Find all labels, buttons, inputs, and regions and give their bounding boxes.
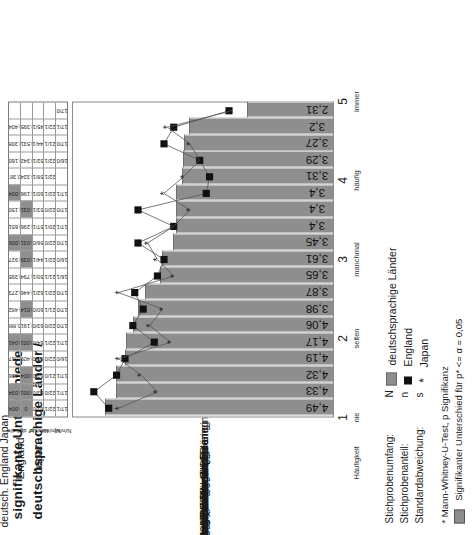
- table-cell: 17/17/0,77: [56, 300, 67, 317]
- table-cell: 70/60/0,95: [33, 300, 44, 317]
- table-cell: 70/63/0,74: [33, 317, 44, 334]
- table-cell-value: 0,5312: [21, 140, 32, 146]
- table-cell: 0,1967: [21, 184, 32, 201]
- table-cell: 70/50/1,31: [33, 267, 44, 284]
- table-cell: 0,0097: [9, 234, 20, 251]
- table-cell-value: 0,4462: [21, 289, 32, 295]
- table-cell-value: 22/22/1,06: [44, 339, 55, 345]
- series-overlay: *******************: [73, 102, 333, 416]
- japan-marker: *: [144, 322, 156, 327]
- table-cell: 17/16/0,81: [56, 151, 67, 168]
- table-cell-value: 22/22/1,03: [44, 123, 55, 129]
- england-marker: [129, 322, 136, 329]
- table-cell-value: 0,4096: [21, 355, 32, 361]
- table-cell: 0,387: [9, 167, 20, 184]
- table-cell: 0,1918: [21, 317, 32, 334]
- table-cell: 0,4822: [9, 300, 20, 317]
- japan-marker: *: [113, 289, 125, 294]
- table-cell-value: 0,888: [9, 322, 20, 328]
- table-cell-value: 70/63/0,84: [33, 355, 44, 361]
- footnote-significance-text: Signifikanter Unterschied für p* <= α = …: [453, 318, 464, 500]
- table-cell: 17/17/1,09: [56, 184, 67, 201]
- japan-marker: *: [158, 190, 170, 195]
- figure-canvas: signifikante Unterschiede: deutschsprach…: [0, 0, 472, 535]
- table-cell-value: 22/22/1,15: [44, 256, 55, 262]
- table-cell-value: 22/22/1,23: [44, 289, 55, 295]
- table-cell: 70/52/1,21: [33, 151, 44, 168]
- table-cell: 70/61/0,92: [33, 399, 44, 416]
- legend-label: England: [402, 327, 414, 366]
- table-cell: 0,0416: [9, 333, 20, 350]
- table-cell-value: 70/60/0,95: [33, 306, 44, 312]
- definition-value: s: [414, 392, 425, 397]
- legend-label: Japan: [418, 338, 430, 367]
- legend-item: England: [400, 247, 415, 385]
- england-marker: [151, 338, 158, 345]
- table-cell: 54/44/1,11: [33, 134, 44, 151]
- table-cell: 22/22/0,80: [44, 350, 55, 367]
- japan-marker: *: [151, 388, 163, 393]
- group-label-japan: Japan: [32, 442, 44, 473]
- table-cell-value: 0,6519: [9, 223, 20, 229]
- table-cell: 22/22/1,06: [44, 333, 55, 350]
- table-cell: 0,5312: [21, 134, 32, 151]
- chart-plot-area: 4,494,334,324,194,174,063,983,873,653,61…: [72, 101, 334, 417]
- table-cell-value: 17/16/0,84: [56, 355, 67, 361]
- table-cell: 0: [21, 399, 32, 416]
- table-cell-value: 0,0314: [21, 239, 32, 245]
- table-cell: 70/56/0,94: [33, 234, 44, 251]
- table-cell-value: 17/17/1,14: [56, 405, 67, 411]
- legend-label: deutschsprachige Länder: [386, 247, 398, 365]
- table-cell: 70/63/0,90: [33, 383, 44, 400]
- table-cell: 17/17/1,26: [56, 217, 67, 234]
- table-cell: 70/45/1,10: [33, 118, 44, 135]
- japan-marker: *: [113, 405, 125, 410]
- chart-legend: deutschsprachige LänderEngland*Japan: [384, 247, 432, 385]
- table-cell-value: 17/17/0,88: [56, 322, 67, 328]
- table-cell-value: 0,3084: [9, 140, 20, 146]
- table-cell: 22/22/1,16: [44, 167, 55, 184]
- table-cell-value: 0,0097: [9, 239, 20, 245]
- table-cell: 0,2737: [9, 283, 20, 300]
- table-cell-value: 17/17/1,09: [56, 372, 67, 378]
- table-cell: 70/64/0,97: [33, 333, 44, 350]
- table-cell-value: 0,0047: [21, 372, 32, 378]
- axis-tick-word: selten: [352, 308, 361, 368]
- definition-key: Standardabweichung:: [412, 397, 427, 523]
- axis-tick: 5immer: [336, 71, 361, 131]
- table-cell-value: 22/20/1,28: [44, 223, 55, 229]
- group-label-england: England: [14, 437, 26, 479]
- table-cell: 70/58/1,33: [33, 167, 44, 184]
- table-cell: 0,3084: [9, 134, 20, 151]
- table-cell: 0,0395: [21, 250, 32, 267]
- rotated-figure-stage: signifikante Unterschiede: deutschsprach…: [0, 0, 472, 535]
- table-cell: 70/53/1,29: [33, 200, 44, 217]
- category-label: Reverse Engineering: [198, 421, 210, 519]
- table-cell: 17/17/0,88: [56, 200, 67, 217]
- table-cell: [33, 102, 44, 118]
- table-cell: 70/57/1,22: [33, 217, 44, 234]
- table-cell: 0,0046: [9, 184, 20, 201]
- england-marker: [90, 388, 97, 395]
- table-cell: 17/17/0,92: [56, 283, 67, 300]
- table-cell-value: 17/17/0,94: [56, 140, 67, 146]
- legend-item: deutschsprachige Länder: [384, 247, 399, 385]
- japan-marker: *: [157, 306, 169, 311]
- table-cell-value: 70/63/0,74: [33, 322, 44, 328]
- asterisk-icon: *: [420, 375, 428, 385]
- axis-tick-number: 2: [336, 308, 350, 368]
- england-marker: [105, 404, 112, 411]
- japan-marker: *: [168, 273, 180, 278]
- axis-tick: 1nie: [336, 387, 361, 447]
- table-cell: 17/17/1,09: [56, 383, 67, 400]
- table-cell-value: 22/22/1,27: [44, 190, 55, 196]
- table-column-header: N/n/s/j: [54, 427, 71, 433]
- significance-swatch-icon: [454, 509, 465, 523]
- definition-value: N: [384, 390, 395, 397]
- table-column-band: 70/61/0,9270/63/0,9070/63/0,8870/63/0,84…: [33, 102, 45, 416]
- table-cell: 0,9271: [9, 250, 20, 267]
- table-cell: 0,4462: [21, 283, 32, 300]
- table-cell: 17/16/0,84: [56, 350, 67, 367]
- filled-square-icon: [404, 376, 412, 384]
- england-marker: [203, 189, 210, 196]
